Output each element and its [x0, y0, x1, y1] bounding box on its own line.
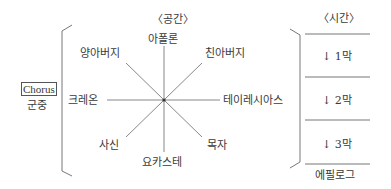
act-2: ↓ 2막 — [322, 95, 352, 106]
node-bottom-left: 사신 — [99, 140, 119, 151]
node-top: 아폴론 — [148, 34, 178, 45]
time-title: 〈시간〉 — [318, 13, 360, 24]
node-top-right: 친아버지 — [205, 48, 245, 59]
node-bottom-right: 목자 — [207, 140, 227, 151]
right-bracket — [290, 29, 300, 168]
center-dot — [162, 98, 165, 101]
node-right: 테이레시아스 — [223, 95, 283, 106]
node-left: 크레온 — [68, 95, 98, 106]
chorus-sublabel: 군중 — [27, 100, 47, 111]
act-3: ↓ 3막 — [322, 139, 352, 150]
epilogue: 에필로그 — [315, 170, 355, 181]
node-bottom: 요카스테 — [142, 157, 182, 168]
act-1: ↓ 1막 — [322, 51, 352, 62]
chorus-label-box: Chorus — [21, 84, 57, 95]
node-top-left: 양아버지 — [80, 48, 120, 59]
space-title: 〈공간〉 — [152, 14, 194, 25]
chorus-label: Chorus — [21, 82, 57, 96]
